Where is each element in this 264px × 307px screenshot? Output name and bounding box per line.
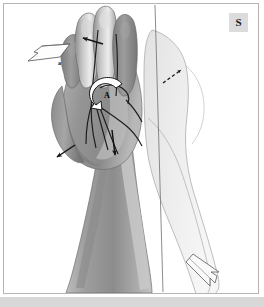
anatomical-illustration (0, 0, 264, 307)
panel-label: S (229, 13, 248, 32)
forearm-and-hand (51, 6, 152, 293)
ghost-limb-overlay (144, 30, 219, 294)
figure-root: S a A (0, 0, 264, 307)
bottom-band (0, 297, 264, 307)
outline-arrow-left-label: a (58, 60, 61, 66)
curved-rotation-arrow-label: A (104, 92, 110, 100)
